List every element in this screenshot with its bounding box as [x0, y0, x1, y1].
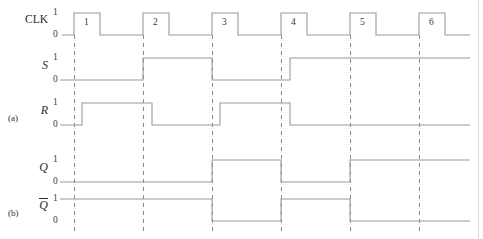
waveform-s — [60, 58, 470, 80]
level-label-clk-high: 1 — [53, 8, 58, 18]
level-label-qbar-low: 0 — [53, 216, 58, 226]
level-label-r-low: 0 — [53, 120, 58, 130]
waveform-clk — [62, 13, 470, 35]
signal-label-qbar: Q — [26, 199, 48, 211]
qbar-overbar-text: Q — [39, 199, 48, 211]
level-label-qbar-high: 1 — [53, 194, 58, 204]
signal-label-s: S — [18, 59, 48, 71]
signal-label-clk: CLK — [18, 14, 48, 26]
waveform-qbar — [60, 199, 470, 221]
level-label-q-high: 1 — [53, 155, 58, 165]
group-label-b: (b) — [8, 209, 19, 218]
clock-pulse-label-3: 3 — [222, 17, 227, 27]
level-label-s-low: 0 — [53, 75, 58, 85]
waveform-canvas — [0, 0, 483, 239]
clock-pulse-label-4: 4 — [291, 17, 296, 27]
clock-edge-gridlines — [75, 35, 420, 232]
clock-pulse-label-6: 6 — [429, 17, 434, 27]
signal-label-q: Q — [18, 161, 48, 173]
clock-pulse-label-1: 1 — [84, 17, 89, 27]
level-label-clk-low: 0 — [53, 30, 58, 40]
page-right-rule — [478, 0, 479, 239]
level-label-q-low: 0 — [53, 177, 58, 187]
level-label-s-high: 1 — [53, 53, 58, 63]
clock-pulse-label-5: 5 — [360, 17, 365, 27]
group-label-a: (a) — [8, 114, 18, 123]
waveform-r — [60, 103, 470, 125]
signal-label-r: R — [26, 104, 48, 116]
clock-pulse-label-2: 2 — [153, 17, 158, 27]
waveform-q — [60, 160, 470, 182]
level-label-r-high: 1 — [53, 98, 58, 108]
timing-diagram-figure: CLK 1 0 1 2 3 4 5 6 S 1 0 (a) R 1 0 Q 1 … — [0, 0, 483, 239]
